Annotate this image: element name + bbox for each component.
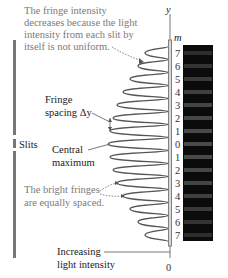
- intensity-curve: [108, 47, 168, 242]
- bright-fringe: [184, 142, 212, 146]
- m-label: 2: [175, 113, 180, 124]
- fringe-spacing-label: Fringe spacing Δy: [45, 94, 112, 131]
- bright-fringe: [184, 194, 212, 198]
- y-axis-label: y: [165, 4, 171, 15]
- intensity-line-1: Increasing: [57, 246, 101, 257]
- bright-fringe: [184, 77, 212, 81]
- central-max-line-2: maximum: [52, 157, 95, 168]
- m-label: 7: [175, 48, 180, 59]
- bright-fringe: [184, 207, 212, 211]
- m-label: 5: [175, 74, 180, 85]
- fringe-intensity-note: The fringe intensity decreases because t…: [24, 5, 144, 64]
- bright-fringe: [184, 103, 212, 107]
- bright-fringe: [184, 129, 212, 133]
- m-label: 2: [175, 165, 180, 176]
- slit-barrier: Slits: [13, 40, 38, 258]
- barrier-upper: [13, 40, 16, 135]
- equal-spacing-line-2: are equally spaced.: [24, 197, 104, 208]
- m-label: 4: [175, 87, 181, 98]
- m-labels: 765432101234567: [175, 48, 181, 241]
- m-label: 5: [175, 204, 180, 215]
- barrier-lower: [13, 151, 16, 258]
- note-dotted-arrow: [112, 47, 142, 61]
- m-label: 4: [175, 191, 181, 202]
- origin-label: 0: [166, 262, 171, 273]
- equal-spacing-note: The bright fringes are equally spaced.: [24, 181, 125, 208]
- note-line-4: itself is not uniform.: [24, 41, 110, 52]
- interference-diagram: Slits The fringe intensity decreases bec…: [0, 0, 228, 278]
- m-label: 1: [175, 126, 180, 137]
- note-line-2: decreases because the light: [24, 17, 137, 28]
- m-label: 6: [175, 61, 180, 72]
- intensity-axis-label: Increasing light intensity: [57, 246, 170, 270]
- central-max-line-1: Central: [52, 144, 83, 155]
- fringe-spacing-line-2: spacing Δy: [45, 107, 92, 118]
- bright-fringe: [184, 90, 212, 94]
- bright-fringe: [184, 220, 212, 224]
- bright-fringes: [184, 51, 212, 237]
- note-line-1: The fringe intensity: [24, 5, 108, 16]
- bright-fringe: [184, 64, 212, 68]
- bright-fringe: [184, 155, 212, 159]
- equal-spacing-line-1: The bright fringes: [24, 184, 100, 195]
- slit-middle-bar: [13, 139, 16, 148]
- m-label: 7: [175, 230, 180, 241]
- note-line-3: intensity from each slit by: [24, 29, 134, 40]
- screen-pattern: [183, 45, 213, 241]
- bright-fringe: [184, 168, 212, 172]
- m-label: 3: [175, 178, 180, 189]
- m-axis-label: m: [174, 32, 182, 43]
- m-label: 6: [175, 217, 180, 228]
- m-label: 0: [175, 139, 180, 150]
- bright-fringe: [184, 181, 212, 185]
- bright-fringe: [184, 233, 212, 237]
- fringe-spacing-line-1: Fringe: [45, 94, 73, 105]
- central-maximum-label: Central maximum: [52, 144, 110, 168]
- bright-fringe: [184, 116, 212, 120]
- slits-label: Slits: [19, 139, 38, 150]
- intensity-line-2: light intensity: [57, 259, 116, 270]
- m-label: 1: [175, 152, 180, 163]
- bright-fringe: [184, 51, 212, 55]
- m-label: 3: [175, 100, 180, 111]
